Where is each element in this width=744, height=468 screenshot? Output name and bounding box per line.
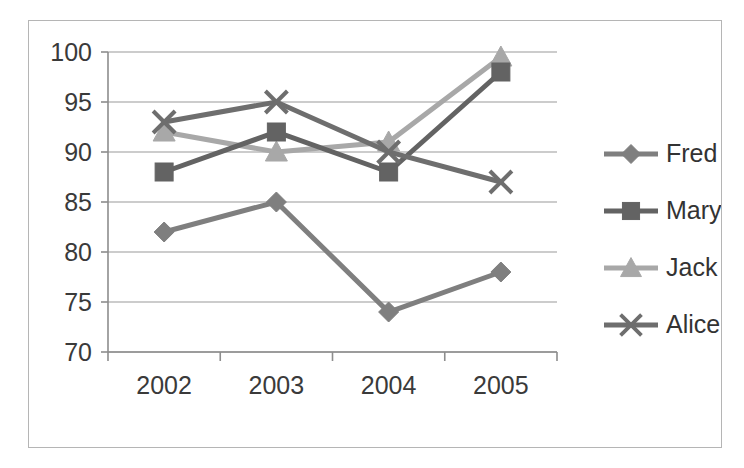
data-point-marker: [622, 145, 641, 164]
legend-item-jack[interactable]: Jack: [604, 253, 718, 281]
data-series-group: [153, 46, 512, 322]
x-tick-label: 2002: [136, 371, 192, 399]
chart-legend: FredMaryJackAlice: [604, 139, 721, 338]
line-chart: 707580859095100 2002200320042005 FredMar…: [29, 21, 721, 447]
x-tick-label: 2005: [473, 371, 529, 399]
data-point-marker: [154, 222, 174, 242]
x-tick-label: 2004: [361, 371, 417, 399]
y-tick-label: 75: [64, 288, 92, 316]
y-tick-label: 95: [64, 88, 92, 116]
series-mary: [155, 63, 510, 181]
data-point-marker: [491, 262, 511, 282]
legend-item-label: Jack: [666, 253, 718, 281]
y-tick-label: 80: [64, 238, 92, 266]
series-line: [164, 202, 501, 312]
y-tick-label: 100: [50, 38, 92, 66]
x-tick-label: 2003: [249, 371, 305, 399]
series-line: [164, 72, 501, 172]
legend-item-alice[interactable]: Alice: [604, 310, 720, 338]
data-point-marker: [267, 123, 285, 141]
series-line: [164, 57, 501, 152]
legend-item-label: Mary: [666, 196, 721, 224]
data-point-marker: [492, 63, 510, 81]
legend-item-fred[interactable]: Fred: [604, 139, 717, 167]
chart-container: 707580859095100 2002200320042005 FredMar…: [28, 20, 722, 448]
data-point-marker: [155, 163, 173, 181]
y-axis: 707580859095100: [50, 38, 108, 366]
legend-item-mary[interactable]: Mary: [604, 196, 721, 224]
y-tick-label: 85: [64, 188, 92, 216]
data-point-marker: [622, 202, 639, 219]
y-tick-label: 70: [64, 338, 92, 366]
x-axis: 2002200320042005: [108, 352, 557, 399]
gridlines: [108, 52, 557, 352]
legend-item-label: Fred: [666, 139, 717, 167]
data-point-marker: [380, 163, 398, 181]
y-tick-label: 90: [64, 138, 92, 166]
series-jack: [153, 46, 512, 161]
legend-item-label: Alice: [666, 310, 720, 338]
